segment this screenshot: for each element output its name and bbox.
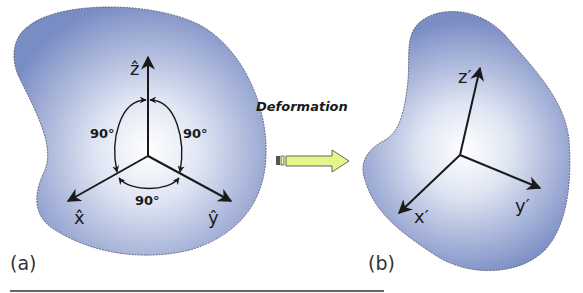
x-prime-label: x′ bbox=[414, 206, 429, 227]
undeformed-body bbox=[14, 7, 266, 255]
z-hat-label: ẑ bbox=[130, 58, 139, 79]
y-prime-label: y′ bbox=[515, 195, 530, 216]
deformation-figure: 90° 90° 90° ẑ x̂ ŷ (a) Deformation z′ x′ bbox=[0, 0, 583, 293]
deformation-label: Deformation bbox=[256, 99, 348, 114]
angle-label-zx: 90° bbox=[90, 126, 115, 141]
angle-label-zy: 90° bbox=[183, 126, 208, 141]
z-prime-label: z′ bbox=[458, 66, 472, 87]
deformation-transition: Deformation bbox=[256, 99, 349, 172]
panel-b-label: (b) bbox=[368, 252, 395, 274]
panel-b: z′ x′ y′ (b) bbox=[363, 11, 570, 274]
deformation-arrow-icon bbox=[276, 150, 349, 172]
angle-label-xy: 90° bbox=[135, 193, 160, 208]
panel-a-label: (a) bbox=[10, 252, 36, 274]
panel-a: 90° 90° 90° ẑ x̂ ŷ (a) bbox=[10, 7, 266, 274]
y-hat-label: ŷ bbox=[208, 207, 219, 228]
x-hat-label: x̂ bbox=[74, 207, 85, 228]
deformed-body bbox=[363, 11, 570, 270]
